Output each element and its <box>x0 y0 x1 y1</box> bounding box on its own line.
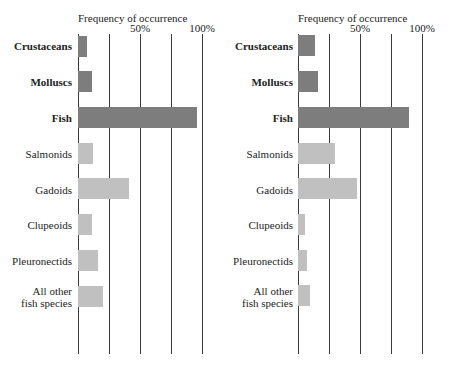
bar-crustaceans <box>298 35 315 56</box>
bar-all-other <box>298 285 310 306</box>
label-fish: Fish <box>203 112 293 124</box>
chart-right: Frequency of occurrence 50% 100% Crustac… <box>0 0 456 377</box>
bar-salmonids <box>298 143 335 164</box>
bar-pleuronectids <box>298 250 307 271</box>
tick-100: 100% <box>409 22 435 34</box>
bar-molluscs <box>298 71 318 92</box>
bar-clupeoids <box>298 214 305 235</box>
label-all-other-line2: fish species <box>203 297 293 309</box>
gridline-50 <box>360 34 361 354</box>
label-clupeoids: Clupeoids <box>203 219 293 231</box>
label-gadoids: Gadoids <box>203 184 293 196</box>
label-molluscs: Molluscs <box>203 76 293 88</box>
label-pleuronectids: Pleuronectids <box>203 255 293 267</box>
label-all-other-line1: All other <box>203 285 293 297</box>
gridline-75 <box>391 34 392 354</box>
gridline-100 <box>422 34 423 354</box>
bar-fish <box>298 107 409 128</box>
tick-50: 50% <box>350 22 370 34</box>
label-salmonids: Salmonids <box>203 148 293 160</box>
label-crustaceans: Crustaceans <box>203 40 293 52</box>
bar-gadoids <box>298 178 357 199</box>
